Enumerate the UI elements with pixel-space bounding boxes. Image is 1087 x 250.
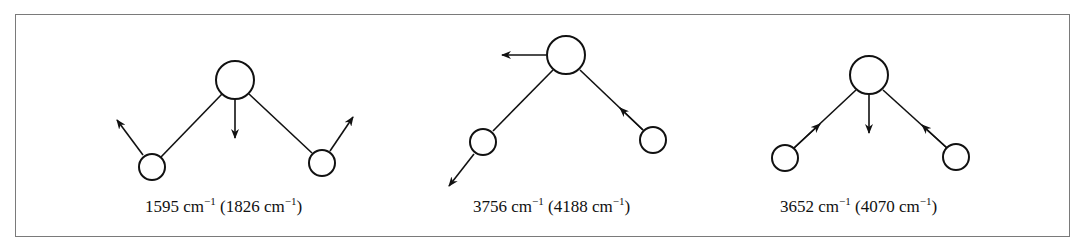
mode-3-label: 3652 cm−1 (4070 cm−1)	[780, 198, 937, 215]
frequency-value: 3652	[780, 197, 814, 216]
unit-exponent: −1	[204, 195, 216, 207]
unit-exponent: −1	[920, 195, 932, 207]
unit: cm	[818, 197, 839, 216]
right-atom	[309, 150, 335, 176]
unit: cm	[899, 197, 920, 216]
unit: cm	[264, 197, 285, 216]
mode-1-diagram	[117, 61, 353, 180]
left-atom	[470, 129, 496, 155]
mode-1-label: 1595 cm−1 (1826 cm−1)	[145, 198, 302, 215]
unit-exponent: −1	[285, 195, 297, 207]
central-atom	[216, 61, 254, 99]
mode-3-diagram	[772, 56, 969, 171]
bond-left	[493, 70, 553, 131]
alt-frequency-value: 4188	[554, 197, 588, 216]
bond-left	[161, 94, 222, 157]
unit: cm	[511, 197, 532, 216]
central-atom	[850, 56, 888, 94]
frequency-value: 1595	[145, 197, 179, 216]
mode-2-diagram	[449, 36, 666, 186]
right-atom	[640, 127, 666, 153]
mode-2-label: 3756 cm−1 (4188 cm−1)	[473, 198, 630, 215]
left-atom	[772, 145, 798, 171]
left-atom	[139, 154, 165, 180]
unit: cm	[183, 197, 204, 216]
frequency-value: 3756	[473, 197, 507, 216]
central-atom	[547, 36, 585, 74]
alt-frequency-value: 4070	[861, 197, 895, 216]
arrow-up-right-icon	[330, 117, 353, 151]
arrow-along-bond-icon	[620, 108, 643, 130]
unit-exponent: −1	[839, 195, 851, 207]
arrow-along-bond-right-icon	[922, 125, 947, 148]
arrow-down-left-icon	[449, 154, 474, 186]
unit-exponent: −1	[613, 195, 625, 207]
arrow-along-bond-left-icon	[794, 124, 820, 148]
arrow-up-left-icon	[117, 120, 143, 155]
bond-right	[249, 94, 312, 153]
unit: cm	[592, 197, 613, 216]
alt-frequency-value: 1826	[226, 197, 260, 216]
unit-exponent: −1	[532, 195, 544, 207]
